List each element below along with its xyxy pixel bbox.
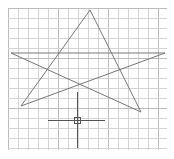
grid	[8, 8, 167, 150]
drawing-canvas[interactable]	[0, 0, 174, 159]
crosshair-cursor	[48, 92, 105, 148]
drawing-svg[interactable]	[0, 0, 174, 159]
